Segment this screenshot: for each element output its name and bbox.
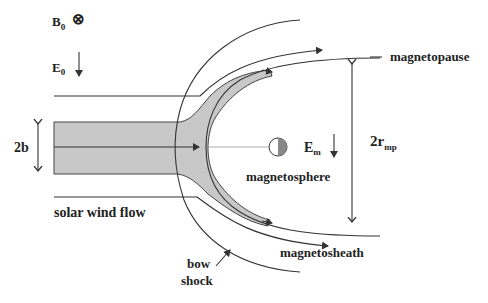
shock-label: shock: [181, 273, 214, 288]
bow-shock-pointer: [216, 250, 230, 266]
b0-into-page-icon: ⊗: [72, 11, 85, 27]
earth-night-side: [278, 138, 287, 156]
magnetosphere-label: magnetosphere: [246, 169, 330, 184]
bow-label: bow: [187, 256, 211, 271]
two-rmp-label: 2rmp: [370, 133, 397, 152]
magnetosphere-diagram: B0 ⊗ E0 2b Em 2rmp magnetopause magnetos…: [0, 0, 488, 303]
flux-tube-fill: [54, 70, 272, 226]
e0-label: E0: [52, 60, 66, 77]
solar-wind-flow-label: solar wind flow: [54, 205, 146, 220]
magnetosheath-label: magnetosheath: [280, 245, 365, 260]
magnetopause-label: magnetopause: [390, 49, 470, 64]
two-b-label: 2b: [14, 140, 29, 155]
b0-label: B0: [52, 14, 66, 32]
em-label: Em: [304, 140, 321, 157]
